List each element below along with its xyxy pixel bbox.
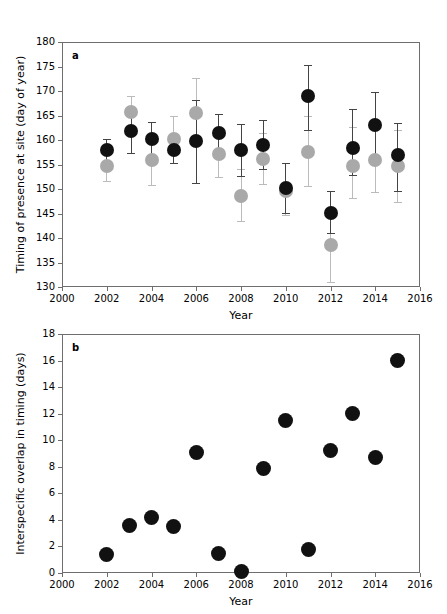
panel-y-tick-mark bbox=[58, 467, 62, 468]
panel-y-tick-mark bbox=[58, 414, 62, 415]
data-point-marker bbox=[234, 189, 248, 203]
data-point-marker bbox=[301, 542, 316, 557]
panel-y-tick-label: 18 bbox=[22, 328, 55, 339]
data-point-marker bbox=[234, 564, 249, 579]
data-point-marker bbox=[301, 145, 315, 159]
error-bar-cap bbox=[170, 163, 178, 164]
data-point-marker bbox=[279, 181, 293, 195]
panel-x-tick-mark bbox=[152, 573, 153, 577]
error-bar-cap bbox=[215, 177, 223, 178]
panel-x-tick-mark bbox=[62, 573, 63, 577]
panel-x-tick-mark bbox=[331, 573, 332, 577]
error-bar-cap bbox=[127, 96, 135, 97]
error-bar-cap bbox=[259, 169, 267, 170]
panel-y-tick-mark bbox=[58, 546, 62, 547]
panel-x-tick-label: 2008 bbox=[219, 579, 263, 590]
error-bar-cap bbox=[282, 163, 290, 164]
figure-root: a Timing of presence at site (day of yea… bbox=[0, 0, 447, 614]
data-point-marker bbox=[256, 152, 270, 166]
panel-y-tick-label: 0 bbox=[22, 567, 55, 578]
panel-y-tick-mark bbox=[58, 387, 62, 388]
error-bar-cap bbox=[148, 185, 156, 186]
error-bar-cap bbox=[349, 109, 357, 110]
panel-y-tick-mark bbox=[58, 361, 62, 362]
error-bar-cap bbox=[371, 92, 379, 93]
data-point-marker bbox=[100, 143, 114, 157]
error-bar-cap bbox=[215, 114, 223, 115]
panel-b-x-axis-label: Year bbox=[62, 595, 420, 608]
panel-x-tick-mark bbox=[107, 573, 108, 577]
panel-x-tick-label: 2004 bbox=[130, 579, 174, 590]
panel-y-tick-label: 12 bbox=[22, 408, 55, 419]
error-bar-cap bbox=[304, 130, 312, 131]
data-point-marker bbox=[167, 143, 181, 157]
data-point-marker bbox=[324, 206, 338, 220]
error-bar-cap bbox=[127, 153, 135, 154]
panel-y-tick-label: 4 bbox=[22, 514, 55, 525]
error-bar-cap bbox=[304, 186, 312, 187]
error-bar-cap bbox=[237, 176, 245, 177]
panel-x-tick-label: 2002 bbox=[85, 579, 129, 590]
error-bar-cap bbox=[394, 191, 402, 192]
error-bar-cap bbox=[237, 124, 245, 125]
panel-y-tick-mark bbox=[58, 334, 62, 335]
data-point-marker bbox=[278, 413, 293, 428]
error-bar-cap bbox=[192, 183, 200, 184]
data-point-marker bbox=[234, 143, 248, 157]
data-point-marker bbox=[189, 445, 204, 460]
error-bar-cap bbox=[394, 123, 402, 124]
data-point-marker bbox=[301, 89, 315, 103]
error-bar-cap bbox=[103, 139, 111, 140]
panel-b: b Interspecific overlap in timing (days)… bbox=[0, 0, 447, 614]
panel-x-tick-label: 2014 bbox=[353, 579, 397, 590]
panel-b-y-axis-label: Interspecific overlap in timing (days) bbox=[14, 334, 27, 573]
error-bar-cap bbox=[148, 122, 156, 123]
error-bar-cap bbox=[259, 184, 267, 185]
data-point-marker bbox=[145, 153, 159, 167]
error-bar-cap bbox=[237, 221, 245, 222]
panel-x-tick-label: 2010 bbox=[264, 579, 308, 590]
panel-y-tick-label: 10 bbox=[22, 434, 55, 445]
panel-y-tick-label: 8 bbox=[22, 461, 55, 472]
panel-x-tick-label: 2000 bbox=[40, 579, 84, 590]
data-point-marker bbox=[124, 105, 138, 119]
error-bar-cap bbox=[192, 100, 200, 101]
panel-x-tick-mark bbox=[375, 573, 376, 577]
error-bar-cap bbox=[282, 213, 290, 214]
error-bar-cap bbox=[304, 65, 312, 66]
data-point-marker bbox=[144, 510, 159, 525]
error-bar-cap bbox=[327, 282, 335, 283]
data-point-marker bbox=[211, 546, 226, 561]
data-point-marker bbox=[145, 132, 159, 146]
data-point-marker bbox=[368, 450, 383, 465]
error-bar-cap bbox=[170, 116, 178, 117]
error-bar-cap bbox=[282, 215, 290, 216]
panel-y-tick-label: 14 bbox=[22, 381, 55, 392]
error-bar-cap bbox=[371, 192, 379, 193]
error-bar-cap bbox=[192, 78, 200, 79]
error-bar-cap bbox=[394, 202, 402, 203]
data-point-marker bbox=[256, 461, 271, 476]
panel-x-tick-label: 2012 bbox=[309, 579, 353, 590]
error-bar-cap bbox=[327, 233, 335, 234]
panel-x-tick-label: 2006 bbox=[174, 579, 218, 590]
error-bar-cap bbox=[349, 198, 357, 199]
data-point-marker bbox=[391, 148, 405, 162]
error-bar-cap bbox=[103, 181, 111, 182]
data-point-marker bbox=[189, 106, 203, 120]
panel-y-tick-mark bbox=[58, 520, 62, 521]
panel-b-letter: b bbox=[72, 343, 79, 353]
error-bar-cap bbox=[349, 175, 357, 176]
panel-y-tick-mark bbox=[58, 440, 62, 441]
panel-y-tick-mark bbox=[58, 493, 62, 494]
data-point-marker bbox=[122, 518, 137, 533]
panel-x-tick-label: 2016 bbox=[398, 579, 442, 590]
panel-x-tick-mark bbox=[286, 573, 287, 577]
error-bar-cap bbox=[259, 120, 267, 121]
data-point-marker bbox=[368, 153, 382, 167]
data-point-marker bbox=[212, 126, 226, 140]
error-bar-cap bbox=[327, 191, 335, 192]
data-point-marker bbox=[324, 238, 338, 252]
panel-b-plot-frame bbox=[62, 334, 420, 573]
panel-x-tick-mark bbox=[196, 573, 197, 577]
